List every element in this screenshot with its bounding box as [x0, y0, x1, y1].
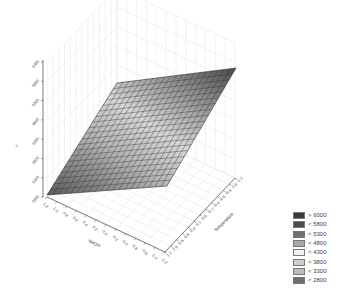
x-tick-label: -0.2 — [111, 234, 120, 243]
x-tick-label: 0.8 — [62, 211, 70, 219]
x-tick-label: 0.6 — [72, 215, 80, 223]
legend-entry: < 4300 — [293, 248, 353, 257]
z-tick-label: 5300 — [31, 97, 41, 108]
x-tick-label: -0.8 — [141, 247, 150, 256]
legend-swatch — [293, 212, 305, 219]
z-tick-label: 4800 — [31, 116, 41, 127]
legend-swatch — [293, 277, 305, 284]
response-surface — [47, 68, 236, 195]
legend-label: > 6000 — [308, 212, 327, 219]
z-tick-label: 3800 — [31, 155, 41, 166]
legend-swatch — [293, 268, 305, 275]
y-tick-label: 1.0 — [171, 244, 179, 252]
legend-label: < 4800 — [308, 240, 327, 247]
legend-label: < 5300 — [308, 231, 327, 238]
x-tick-label: 0.4 — [82, 220, 90, 228]
x-tick-label: -0.4 — [121, 238, 130, 247]
legend-label: < 4300 — [308, 249, 327, 256]
x-tick-label: 1.0 — [52, 206, 60, 214]
legend-swatch — [293, 249, 305, 256]
legend: > 6000< 5800< 5300< 4800< 4300< 3800< 33… — [293, 211, 353, 285]
legend-label: < 3300 — [308, 268, 327, 275]
y-tick-label: 0.8 — [177, 238, 185, 246]
y-tick-label: 0.4 — [189, 225, 197, 233]
x-tick-label: 0.0 — [101, 229, 109, 237]
x-tick-label: 1.2 — [42, 201, 50, 209]
x-axis-title: NaOH — [88, 238, 101, 248]
y-tick-label: 1.2 — [165, 250, 173, 258]
z-axis-title: Y — [14, 144, 20, 149]
legend-entry: < 4800 — [293, 239, 353, 248]
legend-swatch — [293, 259, 305, 266]
z-tick-label: 5800 — [31, 78, 41, 89]
z-tick-label: 6300 — [31, 58, 41, 69]
legend-swatch — [293, 240, 305, 247]
z-tick-label: 2800 — [31, 193, 41, 204]
x-tick-label: -0.6 — [131, 243, 140, 252]
legend-swatch — [293, 231, 305, 238]
y-tick-label: 0.0 — [200, 213, 208, 221]
legend-entry: > 6000 — [293, 211, 353, 220]
legend-label: < 2800 — [308, 277, 327, 284]
legend-entry: < 3800 — [293, 257, 353, 266]
legend-entry: < 2800 — [293, 276, 353, 285]
legend-label: < 5800 — [308, 221, 327, 228]
z-tick-label: 3300 — [31, 174, 41, 185]
z-tick-label: 4300 — [31, 135, 41, 146]
y-tick-label: -1.2 — [235, 175, 244, 184]
legend-label: < 3800 — [308, 259, 327, 266]
x-tick-label: -1.0 — [150, 252, 159, 261]
x-tick-label: 0.2 — [91, 224, 99, 232]
y-axis-title: Temperature — [213, 211, 235, 233]
legend-entry: < 5800 — [293, 220, 353, 229]
legend-entry: < 5300 — [293, 230, 353, 239]
legend-entry: < 3300 — [293, 267, 353, 276]
y-tick-label: 0.2 — [195, 219, 203, 227]
legend-swatch — [293, 221, 305, 228]
y-tick-label: 0.6 — [183, 231, 191, 239]
